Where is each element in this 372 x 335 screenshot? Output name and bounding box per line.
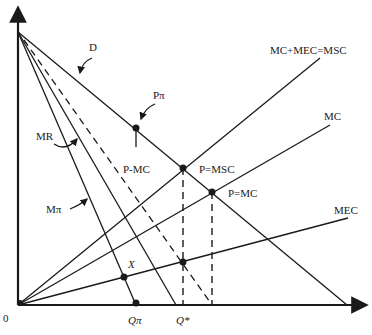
q-star-label: Q* — [176, 314, 190, 326]
p-equals-msc-point — [180, 165, 187, 172]
d-pointer-arrow — [80, 58, 92, 73]
q-pi-point — [133, 300, 140, 307]
p-pi-label: Pπ — [153, 89, 165, 101]
p-minus-mc-label: P-MC — [123, 163, 150, 175]
msc-label: MC+MEC=MSC — [270, 44, 347, 56]
p-pi-pointer-arrow — [141, 104, 155, 119]
q-pi-label: Qπ — [128, 314, 142, 326]
mc-label: MC — [324, 110, 341, 122]
origin-point — [17, 300, 23, 306]
m-pi-label: Mπ — [46, 203, 62, 215]
origin-label: 0 — [3, 312, 9, 324]
p-equals-msc-label: P=MSC — [199, 163, 235, 175]
marginal-profit-curve — [18, 32, 136, 305]
x-label: X — [127, 258, 136, 270]
x-point — [121, 274, 128, 281]
externality-diagram: D Pπ MR P-MC Mπ P=MSC P=MC MC+MEC=MSC MC… — [0, 0, 372, 335]
mec-label: MEC — [334, 204, 358, 216]
p-equals-mc-label: P=MC — [228, 187, 257, 199]
demand-label: D — [89, 41, 97, 53]
msc-curve — [18, 58, 320, 305]
p-pi-point — [133, 125, 140, 132]
mc-curve — [18, 125, 330, 305]
m-pi-pointer-arrow — [70, 199, 87, 209]
p-equals-mc-point — [209, 189, 216, 196]
marginal-revenue-curve — [18, 32, 176, 305]
mec-at-q-star-point — [180, 259, 187, 266]
mr-label: MR — [36, 130, 54, 142]
